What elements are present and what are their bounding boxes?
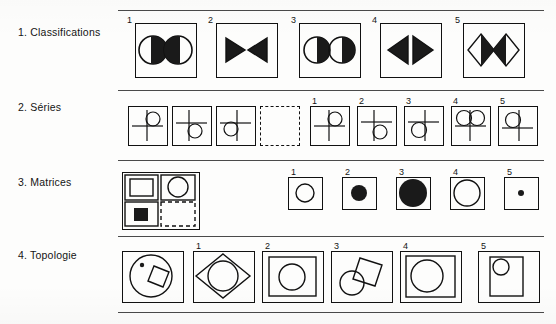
row-topology: 4. Topologie 1 2 3 [0, 236, 556, 312]
series-stimulus-cell-3-art [217, 107, 254, 144]
matrices-option-1-art [289, 178, 321, 208]
row-label-series: 2. Séries [18, 101, 61, 113]
series-stimulus-cell-3 [216, 106, 256, 146]
row-series: 2. Séries 1 [0, 90, 556, 160]
option-number-1-2: 2 [208, 16, 213, 25]
option-number-3-2: 2 [345, 168, 350, 177]
row-matrices: 3. Matrices 1 2 3 [0, 160, 556, 236]
option-number-3-1: 1 [291, 168, 296, 177]
topology-stimulus-art [123, 252, 182, 301]
topology-stimulus [122, 251, 184, 303]
row-label-matrices: 3. Matrices [18, 176, 72, 188]
series-option-5-art [499, 107, 536, 144]
topology-option-2-art [263, 252, 322, 301]
option-number-4-3: 3 [334, 242, 339, 251]
series-stimulus-cell-2-art [173, 107, 210, 144]
topology-option-4[interactable] [400, 251, 462, 303]
option-number-2-4: 4 [453, 97, 458, 106]
topology-option-2[interactable] [262, 251, 324, 303]
row-label-topology: 4. Topologie [18, 249, 77, 261]
series-stimulus-cell-1-art [129, 107, 166, 144]
test-sheet: 1. Classifications 1 2 3 [0, 0, 556, 324]
topology-option-1[interactable] [193, 251, 255, 303]
classifications-option-5-art [464, 24, 523, 76]
series-option-5[interactable] [498, 106, 538, 146]
matrices-option-5-art [505, 178, 537, 208]
topology-option-3-art [332, 252, 391, 301]
option-number-1-1: 1 [127, 16, 132, 25]
matrices-option-2-art [343, 178, 375, 208]
series-option-4-art [452, 107, 489, 144]
series-option-3-art [405, 107, 442, 144]
classifications-option-1[interactable] [135, 23, 197, 78]
matrices-option-1[interactable] [288, 177, 323, 210]
classifications-option-1-art [136, 24, 195, 76]
topology-option-5-art [479, 252, 538, 301]
topology-option-5[interactable] [478, 251, 540, 303]
option-number-4-5: 5 [481, 242, 486, 251]
divider-bottom [118, 312, 544, 313]
option-number-4-1: 1 [196, 242, 201, 251]
option-number-3-3: 3 [399, 168, 404, 177]
classifications-option-4-art [381, 24, 440, 76]
classifications-option-3-art [300, 24, 359, 76]
option-number-1-5: 5 [455, 16, 460, 25]
matrices-stimulus [122, 172, 200, 230]
option-number-1-4: 4 [372, 16, 377, 25]
classifications-option-4[interactable] [380, 23, 442, 78]
series-option-1-art [311, 107, 348, 144]
matrices-option-3[interactable] [396, 177, 431, 210]
option-number-4-4: 4 [403, 242, 408, 251]
topology-option-3[interactable] [331, 251, 393, 303]
option-number-2-5: 5 [500, 97, 505, 106]
option-number-2-1: 1 [312, 97, 317, 106]
classifications-option-3[interactable] [299, 23, 361, 78]
option-number-1-3: 3 [291, 16, 296, 25]
series-option-2-art [358, 107, 395, 144]
matrices-option-3-art [397, 178, 429, 208]
classifications-option-2[interactable] [216, 23, 278, 78]
option-number-4-2: 2 [265, 242, 270, 251]
series-stimulus-cell-missing [260, 106, 300, 146]
series-stimulus-cell-2 [172, 106, 212, 146]
series-option-4[interactable] [451, 106, 491, 146]
series-option-2[interactable] [357, 106, 397, 146]
option-number-3-5: 5 [507, 168, 512, 177]
classifications-option-2-art [217, 24, 276, 76]
matrices-option-4[interactable] [450, 177, 485, 210]
row-classifications: 1. Classifications 1 2 3 [0, 0, 556, 90]
topology-option-4-art [401, 252, 460, 301]
option-number-3-4: 4 [453, 168, 458, 177]
series-option-1[interactable] [310, 106, 350, 146]
option-number-2-2: 2 [359, 97, 364, 106]
row-label-classifications: 1. Classifications [18, 26, 100, 38]
topology-option-1-art [194, 252, 253, 301]
classifications-option-5[interactable] [463, 23, 525, 78]
series-option-3[interactable] [404, 106, 444, 146]
series-stimulus-cell-1 [128, 106, 168, 146]
option-number-2-3: 3 [406, 97, 411, 106]
matrices-option-4-art [451, 178, 483, 208]
matrices-option-5[interactable] [504, 177, 539, 210]
matrices-stimulus-art [123, 173, 198, 228]
matrices-option-2[interactable] [342, 177, 377, 210]
